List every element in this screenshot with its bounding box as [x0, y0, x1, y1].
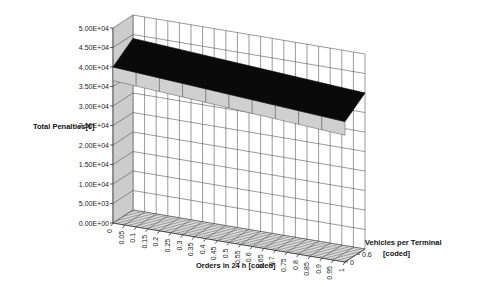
svg-text:0: 0	[350, 259, 354, 266]
svg-text:0.8: 0.8	[292, 260, 299, 270]
svg-text:1: 1	[338, 268, 345, 272]
svg-text:0.35: 0.35	[187, 243, 194, 257]
svg-text:[coded]: [coded]	[383, 249, 411, 258]
svg-text:0.45: 0.45	[210, 246, 217, 260]
svg-text:0.9: 0.9	[315, 264, 322, 274]
surface-plot	[113, 38, 365, 135]
svg-text:0.4: 0.4	[199, 244, 206, 254]
svg-text:1.50E+04: 1.50E+04	[79, 161, 109, 168]
surface-chart: 0.00E+005.00E+031.00E+041.50E+042.00E+04…	[0, 0, 481, 287]
x-axis-title: Orders in 24 h [coded]	[196, 261, 276, 270]
svg-text:1.00E+04: 1.00E+04	[79, 181, 109, 188]
svg-text:4.50E+04: 4.50E+04	[79, 44, 109, 51]
svg-text:0: 0	[106, 229, 113, 233]
svg-text:4.00E+04: 4.00E+04	[79, 64, 109, 71]
svg-text:0.85: 0.85	[303, 262, 310, 276]
svg-text:0.95: 0.95	[326, 266, 333, 280]
svg-text:Vehicles per Terminal: Vehicles per Terminal	[365, 238, 442, 247]
svg-text:5.00E+03: 5.00E+03	[79, 200, 109, 207]
svg-text:0.75: 0.75	[280, 258, 287, 272]
svg-text:2.00E+04: 2.00E+04	[79, 142, 109, 149]
y-axis-title: Vehicles per Terminal [coded]	[365, 238, 442, 258]
svg-text:0.3: 0.3	[176, 241, 183, 251]
svg-text:0.15: 0.15	[141, 235, 148, 249]
svg-text:0.5: 0.5	[222, 248, 229, 258]
svg-text:0.1: 0.1	[129, 233, 136, 243]
svg-text:3.00E+04: 3.00E+04	[79, 103, 109, 110]
svg-text:0.25: 0.25	[164, 239, 171, 253]
svg-text:5.00E+04: 5.00E+04	[79, 25, 109, 32]
svg-text:3.50E+04: 3.50E+04	[79, 83, 109, 90]
z-axis-title: Total Penalties[€]	[33, 122, 95, 131]
svg-text:0.2: 0.2	[152, 237, 159, 247]
svg-text:0.6: 0.6	[362, 251, 372, 258]
svg-text:0.00E+00: 0.00E+00	[79, 220, 109, 227]
svg-text:0.05: 0.05	[118, 231, 125, 245]
